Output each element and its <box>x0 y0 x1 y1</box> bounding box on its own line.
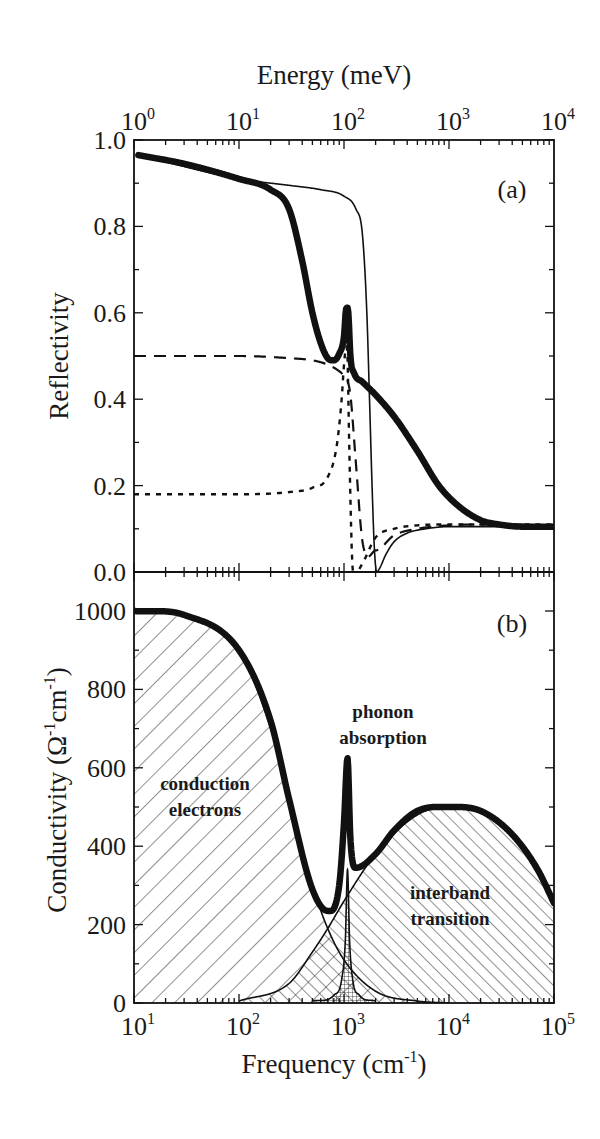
tick-label: 0.4 <box>94 385 127 414</box>
tick-label: 0.8 <box>94 212 127 241</box>
figure: Energy (meV) 100101102103104 0.00.20.40.… <box>0 0 600 1139</box>
svg-text:transition: transition <box>410 908 490 929</box>
tick-label: 800 <box>87 675 126 704</box>
tick-label: 103 <box>436 105 470 136</box>
svg-text:electrons: electrons <box>169 799 241 820</box>
tick-label: 104 <box>436 1010 470 1041</box>
panel-a-y-tick-labels: 0.00.20.40.60.81.0 <box>94 126 127 587</box>
annotation-phonon-absorption: phonon absorption <box>339 701 427 748</box>
tick-label: 100 <box>121 105 155 136</box>
bottom-axis-tick-labels: 101102103104105 <box>121 1010 575 1041</box>
reflectivity-curve-0 <box>138 155 554 527</box>
tick-label: 200 <box>87 911 126 940</box>
tick-label: 102 <box>331 105 365 136</box>
top-axis-tick-labels: 100101102103104 <box>121 105 575 136</box>
tick-label: 103 <box>331 1010 365 1041</box>
tick-label: 0.2 <box>94 472 127 501</box>
panel-b-label: (b) <box>497 609 527 638</box>
svg-text:phonon: phonon <box>352 701 414 722</box>
tick-label: 104 <box>541 105 575 136</box>
svg-text:conduction: conduction <box>160 773 250 794</box>
panel-a-ylabel: Reflectivity <box>44 292 74 420</box>
tick-label: 600 <box>87 754 126 783</box>
top-axis-title: Energy (meV) <box>257 60 412 90</box>
reflectivity-curve-1 <box>138 155 554 572</box>
panel-a-curves <box>134 155 554 577</box>
tick-label: 0.6 <box>94 299 127 328</box>
tick-label: 101 <box>226 105 260 136</box>
panel-b-y-tick-labels: 02004006008001000 <box>74 597 126 1018</box>
tick-label: 0.0 <box>94 558 127 587</box>
tick-label: 1.0 <box>94 126 127 155</box>
svg-text:interband: interband <box>410 882 491 903</box>
tick-label: 101 <box>121 1010 155 1041</box>
tick-label: 102 <box>226 1010 260 1041</box>
bottom-axis-title: Frequency (cm-1) <box>241 1048 426 1079</box>
reflectivity-curve-3 <box>134 347 554 577</box>
tick-label: 400 <box>87 832 126 861</box>
tick-label: 105 <box>541 1010 575 1041</box>
svg-text:absorption: absorption <box>339 727 427 748</box>
panel-a-label: (a) <box>498 175 527 204</box>
tick-label: 1000 <box>74 597 126 626</box>
panel-b-ylabel: Conductivity (Ω-1cm-1) <box>41 667 72 912</box>
